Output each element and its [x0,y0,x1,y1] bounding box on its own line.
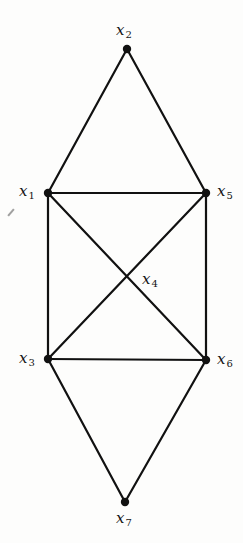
label-subscript: 1 [28,190,34,201]
node-x1 [44,189,52,197]
edge-x3-x7 [48,359,125,502]
label-var: x [19,182,27,200]
label-x2: x2 [116,23,132,40]
label-var: x [19,349,27,367]
label-var: x [116,21,124,39]
edge-x6-x7 [125,360,206,502]
label-var: x [217,350,225,368]
label-x7: x7 [116,511,132,528]
graph-edges-layer [0,0,243,543]
edge-x3-x6 [48,359,206,360]
label-var: x [142,270,150,288]
label-subscript: 3 [28,357,34,368]
label-subscript: 2 [125,29,131,40]
label-x1: x1 [19,184,35,201]
label-var: x [116,509,124,527]
label-subscript: 7 [125,517,131,528]
label-subscript: 5 [226,190,232,201]
edge-x2-x5 [127,49,206,193]
node-x6 [202,356,210,364]
node-x5 [202,189,210,197]
label-x4: x4 [142,272,158,289]
label-subscript: 4 [151,278,157,289]
node-x3 [44,355,52,363]
graph-diagram: x1x2x3x4x5x6x7 [0,0,243,543]
label-var: x [217,182,225,200]
label-x5: x5 [217,184,233,201]
node-x2 [123,45,131,53]
edge-x2-x1 [48,49,127,193]
label-x6: x6 [217,352,233,369]
label-x3: x3 [19,351,35,368]
label-subscript: 6 [226,358,232,369]
node-x7 [121,498,129,506]
